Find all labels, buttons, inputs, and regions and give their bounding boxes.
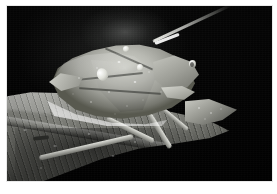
- vignette-overlay: [7, 6, 272, 181]
- photo-frame: [0, 0, 277, 194]
- photograph: [7, 6, 272, 181]
